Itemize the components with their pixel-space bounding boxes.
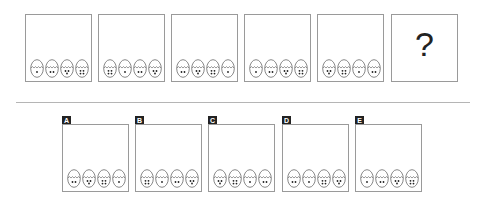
egg-icon bbox=[97, 168, 111, 188]
egg-icon bbox=[322, 58, 336, 78]
egg-group bbox=[176, 58, 235, 78]
egg-icon bbox=[405, 168, 419, 188]
egg-group bbox=[249, 58, 308, 78]
egg-icon bbox=[170, 168, 184, 188]
egg-icon bbox=[294, 58, 308, 78]
egg-icon bbox=[140, 168, 154, 188]
egg-icon bbox=[185, 168, 199, 188]
egg-icon bbox=[360, 168, 374, 188]
egg-icon bbox=[221, 58, 235, 78]
egg-icon bbox=[60, 58, 74, 78]
egg-icon bbox=[118, 58, 132, 78]
egg-icon bbox=[228, 168, 242, 188]
egg-icon bbox=[375, 168, 389, 188]
egg-icon bbox=[191, 58, 205, 78]
sequence-frame-5 bbox=[317, 14, 384, 82]
egg-icon bbox=[176, 58, 190, 78]
egg-icon bbox=[206, 58, 220, 78]
sequence-frame-1 bbox=[25, 14, 92, 82]
egg-icon bbox=[82, 168, 96, 188]
egg-icon bbox=[264, 58, 278, 78]
egg-group bbox=[140, 168, 199, 188]
egg-icon bbox=[287, 168, 301, 188]
option-d[interactable] bbox=[282, 124, 349, 192]
egg-icon bbox=[148, 58, 162, 78]
egg-icon bbox=[155, 168, 169, 188]
egg-icon bbox=[249, 58, 263, 78]
egg-group bbox=[360, 168, 419, 188]
egg-group bbox=[322, 58, 381, 78]
egg-icon bbox=[133, 58, 147, 78]
option-c[interactable] bbox=[208, 124, 275, 192]
option-a[interactable] bbox=[62, 124, 129, 192]
egg-icon bbox=[302, 168, 316, 188]
egg-icon bbox=[332, 168, 346, 188]
egg-group bbox=[213, 168, 272, 188]
egg-icon bbox=[258, 168, 272, 188]
egg-icon bbox=[352, 58, 366, 78]
egg-group bbox=[67, 168, 126, 188]
egg-icon bbox=[367, 58, 381, 78]
egg-icon bbox=[317, 168, 331, 188]
question-mark: ? bbox=[392, 25, 457, 64]
sequence-frame-4 bbox=[244, 14, 311, 82]
sequence-frame-2 bbox=[98, 14, 165, 82]
egg-group bbox=[103, 58, 162, 78]
egg-icon bbox=[30, 58, 44, 78]
egg-icon bbox=[75, 58, 89, 78]
egg-icon bbox=[390, 168, 404, 188]
divider bbox=[16, 102, 470, 103]
egg-group bbox=[287, 168, 346, 188]
option-b[interactable] bbox=[135, 124, 202, 192]
egg-icon bbox=[67, 168, 81, 188]
option-e[interactable] bbox=[355, 124, 422, 192]
egg-icon bbox=[243, 168, 257, 188]
egg-icon bbox=[103, 58, 117, 78]
question-frame: ? bbox=[391, 14, 458, 82]
egg-icon bbox=[112, 168, 126, 188]
egg-icon bbox=[45, 58, 59, 78]
egg-icon bbox=[213, 168, 227, 188]
egg-icon bbox=[337, 58, 351, 78]
egg-icon bbox=[279, 58, 293, 78]
egg-group bbox=[30, 58, 89, 78]
sequence-frame-3 bbox=[171, 14, 238, 82]
